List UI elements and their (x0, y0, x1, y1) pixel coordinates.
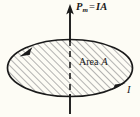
area-text: Area (79, 56, 98, 67)
moment-value: IA (96, 1, 107, 12)
area-symbol: A (98, 56, 107, 67)
current-label: I (127, 85, 131, 96)
figure-canvas (0, 0, 140, 117)
moment-equals-sign: = (88, 1, 96, 12)
current-symbol: I (127, 84, 131, 95)
magnetic-moment-label: Pm=IA (76, 2, 107, 14)
area-label: AreaA (79, 57, 108, 67)
magnetic-dipole-figure: Pm=IA AreaA I (0, 0, 140, 117)
